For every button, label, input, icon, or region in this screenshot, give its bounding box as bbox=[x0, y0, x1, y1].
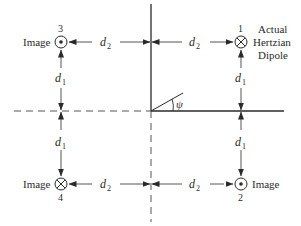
svg-text:1: 1 bbox=[242, 78, 246, 87]
dimension-d2-bottom-left: d 2 bbox=[69, 177, 150, 193]
svg-text:d: d bbox=[189, 35, 196, 49]
dimension-d1-upper-left: d 1 bbox=[55, 50, 66, 110]
dimension-d2-bottom-right: d 2 bbox=[152, 177, 233, 193]
svg-text:d: d bbox=[189, 177, 196, 191]
dimension-d2-top-right: d 2 bbox=[152, 35, 233, 51]
svg-text:2: 2 bbox=[196, 184, 200, 193]
svg-text:d: d bbox=[55, 71, 62, 85]
dipole-image-diagram: ψ d 2 d 2 d 2 d 2 d 1 d 1 bbox=[0, 0, 301, 226]
source-1-actual-dipole: 1 Actual Hertzian Dipole bbox=[235, 23, 291, 61]
svg-text:4: 4 bbox=[58, 192, 63, 203]
svg-text:Dipole: Dipole bbox=[258, 49, 288, 61]
svg-text:1: 1 bbox=[62, 78, 66, 87]
svg-text:Image: Image bbox=[23, 36, 51, 48]
svg-text:d: d bbox=[55, 135, 62, 149]
svg-text:d: d bbox=[235, 135, 242, 149]
svg-text:1: 1 bbox=[242, 142, 246, 151]
source-4-image: 4 Image bbox=[23, 178, 67, 203]
source-2-image: 2 Image bbox=[235, 178, 280, 203]
svg-text:d: d bbox=[100, 35, 107, 49]
dimension-d1-lower-left: d 1 bbox=[55, 112, 66, 176]
svg-text:Hertzian: Hertzian bbox=[253, 36, 291, 48]
svg-text:Image: Image bbox=[23, 178, 51, 190]
svg-text:d: d bbox=[235, 71, 242, 85]
svg-text:1: 1 bbox=[238, 23, 243, 34]
svg-text:1: 1 bbox=[62, 142, 66, 151]
svg-text:2: 2 bbox=[107, 184, 111, 193]
angle-psi-indicator: ψ bbox=[151, 93, 183, 111]
svg-text:2: 2 bbox=[196, 42, 200, 51]
svg-text:2: 2 bbox=[238, 192, 243, 203]
angle-psi-label: ψ bbox=[176, 98, 183, 110]
svg-text:d: d bbox=[100, 177, 107, 191]
dimension-d1-lower-right: d 1 bbox=[235, 112, 246, 176]
svg-text:3: 3 bbox=[58, 23, 63, 34]
svg-text:2: 2 bbox=[107, 42, 111, 51]
dimension-d1-upper-right: d 1 bbox=[235, 50, 246, 110]
source-3-image: 3 Image bbox=[23, 23, 67, 48]
svg-text:Image: Image bbox=[252, 178, 280, 190]
svg-text:Actual: Actual bbox=[258, 23, 287, 35]
dimension-d2-top-left: d 2 bbox=[69, 35, 150, 51]
